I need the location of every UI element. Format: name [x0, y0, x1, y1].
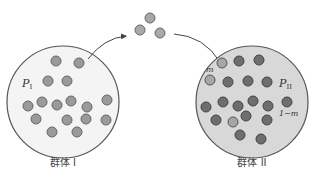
resident-fraction-label: 1−m [279, 109, 299, 118]
population-2-label: 群体 II [237, 156, 266, 168]
migrant-fraction-label: m [206, 65, 214, 74]
migration-diagram: PI 群体 I [0, 0, 313, 181]
population-2: m PII 1−m 群体 II [196, 46, 308, 168]
population-1-label: 群体 I [50, 156, 76, 168]
population-1: PI 群体 I [7, 46, 119, 168]
immigration-arrow [174, 34, 220, 62]
migrants [135, 13, 165, 38]
